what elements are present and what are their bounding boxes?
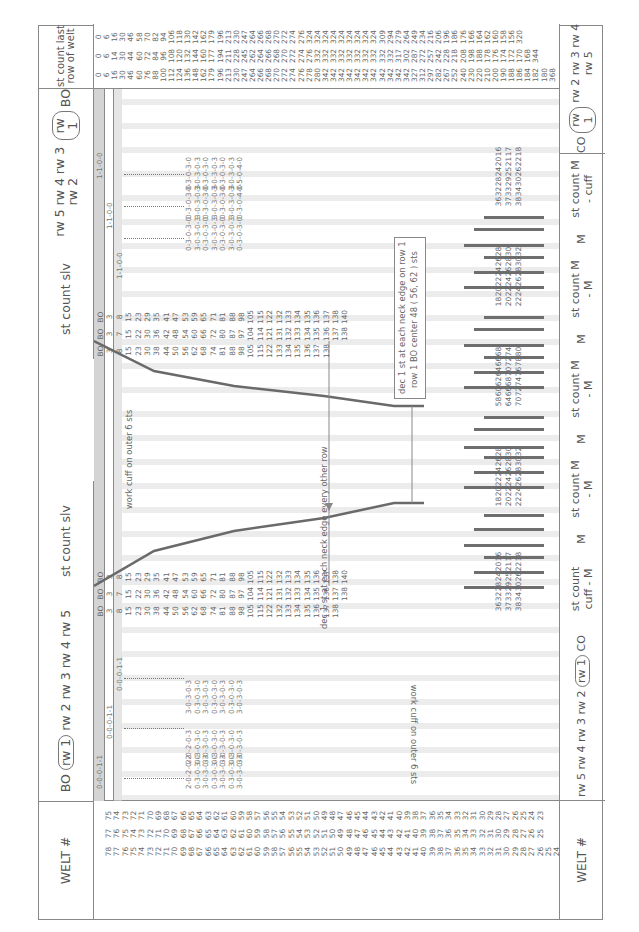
bottom-count: 80 [514, 344, 523, 359]
sleeve-count: 138 [340, 586, 349, 602]
dotted-leader-line [124, 677, 184, 679]
sleeve-count: 44 [162, 343, 171, 359]
sleeve-count: 135 [303, 309, 312, 325]
segment-label: st count M - cuff [570, 159, 594, 219]
sleeve-count: 134 [293, 603, 302, 619]
sleeve-count: 54 [181, 586, 190, 602]
header-right-sleeve: st count slv [39, 239, 94, 359]
dotted-leader-line [124, 727, 184, 729]
co-label: CO [576, 137, 588, 153]
sleeve-count: 98 [237, 343, 246, 359]
footer-seg-4: st count M - M [560, 359, 605, 419]
marker-bar [474, 428, 544, 431]
last-row-count: 344 [531, 47, 540, 65]
dotted-leader-line [124, 237, 184, 239]
sleeve-count: BO [96, 309, 105, 325]
rows-label: rw 2 rw 3 rw 4 rw 5 [570, 23, 594, 104]
sleeve-count: 138 [331, 309, 340, 325]
sleeve-count: 138 [322, 343, 331, 359]
sleeve-count: 44 [162, 603, 171, 619]
header-left-rows: BO rw 1 rw 2 rw 3 rw 4 rw 5 [39, 601, 94, 801]
footer-welt: WELT # [560, 800, 605, 919]
sleeve-count: 88 [228, 343, 237, 359]
co-label: CO [576, 635, 588, 651]
bottom-count: 28 [494, 244, 503, 259]
sleeve-count: 23 [134, 569, 143, 585]
bottom-count: 30 [504, 244, 513, 259]
bottom-count: 17 [504, 549, 513, 564]
sleeve-count: 81 [218, 603, 227, 619]
sleeve-count: 133 [284, 569, 293, 585]
sleeve-count: 71 [209, 309, 218, 325]
sleeve-count: 68 [199, 343, 208, 359]
sleeve-count: 15 [124, 569, 133, 585]
footer-seg-6: st count M - M [560, 259, 605, 319]
footer-seg-1: M [560, 524, 605, 554]
marker-bar [484, 216, 544, 219]
instruction-top-a: 3-0-3-0-3 [235, 755, 244, 789]
marker-bar [484, 514, 544, 517]
sleeve-count: 65 [199, 569, 208, 585]
neck-shaping-lines [94, 89, 559, 801]
sleeve-count: 97 [237, 586, 246, 602]
sleeve-count: 74 [209, 343, 218, 359]
sleeve-count: 133 [284, 309, 293, 325]
sleeve-count: 115 [256, 343, 265, 359]
sleeve-count: 62 [190, 343, 199, 359]
bottom-count: 74 [504, 344, 513, 359]
footer-seg-8: st count M - cuff [560, 159, 605, 219]
marker-bar [474, 228, 544, 231]
dotted-leader-line [124, 173, 184, 175]
sleeve-count: 30 [143, 603, 152, 619]
header-left-sleeve: st count slv [39, 481, 94, 601]
sleeve-count: 42 [162, 326, 171, 342]
sleeve-count: 3 [105, 603, 114, 619]
welt-header-label: WELT # [59, 837, 72, 885]
sleeve-count: 59 [190, 569, 199, 585]
instruction-row3: 0-0-0-1-1 [115, 657, 124, 691]
row1-circled: rw 1 [52, 111, 80, 140]
bottom-count: 18 [514, 549, 523, 564]
sleeve-count: 87 [228, 586, 237, 602]
sleeve-count: 133 [284, 603, 293, 619]
sleeve-count: 140 [340, 309, 349, 325]
sleeve-count: 132 [275, 309, 284, 325]
bottom-count: 28 [494, 444, 503, 459]
instruction-co-row2: 1-1-0-0 [105, 202, 114, 229]
sleeve-count: 134 [284, 343, 293, 359]
marker-bar [484, 316, 544, 319]
sleeve-count: 115 [256, 603, 265, 619]
welt-footer-label: WELT # [576, 837, 589, 883]
footer-left-rows: rw 5 rw 4 rw 3 rw 2 rw 1 CO [560, 631, 605, 801]
sleeve-count: 138 [331, 569, 340, 585]
segment-label: st count cuff - M [570, 559, 594, 619]
sleeve-count: BO [96, 569, 105, 585]
sleeve-count: 88 [228, 309, 237, 325]
sleeve-count: 133 [293, 586, 302, 602]
sleeve-count: 137 [331, 326, 340, 342]
sleeve-count: 65 [199, 309, 208, 325]
knitting-chart: WELT # BO rw 1 rw 2 rw 3 rw 4 rw 5 st co… [0, 0, 639, 932]
sleeve-count: 47 [171, 569, 180, 585]
footer-seg-0: st count cuff - M [560, 559, 605, 619]
sleeve-count: 136 [322, 586, 331, 602]
header-right-rows: rw 5 rw 4 rw 3 rw 2 rw 1 BO [39, 89, 94, 239]
sleeve-count: 30 [143, 586, 152, 602]
sleeve-count: 48 [171, 586, 180, 602]
last-row-column: 0616304660768810011212413614816217919621… [94, 24, 559, 89]
dotted-leader-line [124, 777, 184, 779]
instruction-top-right-c: 0-3-0-3-0 [235, 217, 244, 251]
instruction-co-row3: 1-1-0-0 [115, 252, 124, 279]
sleeve-count: 134 [303, 586, 312, 602]
sleeve-count: 134 [303, 326, 312, 342]
sleeve-count: 56 [181, 603, 190, 619]
sleeve-count: 98 [237, 603, 246, 619]
sleeve-count: 138 [331, 603, 340, 619]
bottom-count: 17 [504, 144, 513, 159]
sleeve-count: 53 [181, 309, 190, 325]
sleeve-count: 133 [293, 326, 302, 342]
sleeve-count: 71 [209, 569, 218, 585]
sleeve-count: 131 [275, 326, 284, 342]
header-welt: WELT # [39, 801, 94, 919]
bottom-count: 32 [514, 444, 523, 459]
